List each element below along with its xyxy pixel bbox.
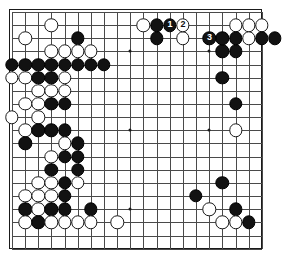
- stone-black: [268, 32, 281, 45]
- move-number-label: 2: [177, 19, 188, 30]
- move-stone-1: 1: [163, 18, 176, 31]
- star-point: [129, 50, 132, 53]
- stone-white: [5, 71, 18, 84]
- move-number-label: 1: [164, 19, 175, 30]
- stone-white: [32, 110, 45, 123]
- stone-white: [229, 124, 242, 137]
- stone-black: [45, 97, 58, 110]
- star-point: [129, 129, 132, 132]
- grid-line-horizontal: [12, 117, 262, 118]
- stone-black: [58, 189, 71, 202]
- stone-black: [45, 71, 58, 84]
- stone-white: [18, 189, 31, 202]
- stone-white: [45, 45, 58, 58]
- stone-black: [71, 150, 84, 163]
- stone-black: [229, 32, 242, 45]
- stone-black: [45, 203, 58, 216]
- stone-white: [5, 110, 18, 123]
- stone-white: [229, 18, 242, 31]
- stone-white: [18, 32, 31, 45]
- stone-white: [84, 45, 97, 58]
- stone-black: [5, 58, 18, 71]
- stone-black: [58, 203, 71, 216]
- stone-white: [45, 150, 58, 163]
- stone-white: [32, 189, 45, 202]
- stone-white: [18, 71, 31, 84]
- stone-white: [45, 84, 58, 97]
- stone-white: [32, 97, 45, 110]
- stone-black: [32, 124, 45, 137]
- stone-black: [18, 203, 31, 216]
- stone-black: [58, 97, 71, 110]
- stone-black: [18, 137, 31, 150]
- stone-black: [71, 163, 84, 176]
- stone-black: [229, 97, 242, 110]
- stone-white: [71, 216, 84, 229]
- stone-white: [18, 124, 31, 137]
- stone-black: [255, 32, 268, 45]
- stone-white: [255, 18, 268, 31]
- stone-black: [45, 124, 58, 137]
- stone-black: [229, 45, 242, 58]
- stone-black: [216, 71, 229, 84]
- stone-white: [176, 32, 189, 45]
- stone-black: [216, 32, 229, 45]
- stone-white: [71, 176, 84, 189]
- grid-line-horizontal: [12, 12, 262, 13]
- move-number-label: 3: [204, 33, 215, 44]
- star-point: [208, 50, 211, 53]
- stone-black: [32, 216, 45, 229]
- stone-black: [150, 18, 163, 31]
- go-board-diagram: 123: [0, 0, 283, 280]
- stone-white: [58, 84, 71, 97]
- star-point: [208, 129, 211, 132]
- stone-black: [84, 58, 97, 71]
- move-stone-2: 2: [176, 18, 189, 31]
- stone-white: [18, 97, 31, 110]
- stone-white: [229, 216, 242, 229]
- stone-white: [110, 216, 123, 229]
- move-stone-3: 3: [203, 32, 216, 45]
- stone-white: [45, 18, 58, 31]
- grid-line-horizontal: [12, 143, 262, 144]
- stone-white: [242, 18, 255, 31]
- stone-black: [32, 71, 45, 84]
- stone-white: [58, 45, 71, 58]
- stone-black: [45, 163, 58, 176]
- stone-white: [242, 32, 255, 45]
- stone-black: [150, 32, 163, 45]
- stone-black: [229, 203, 242, 216]
- stone-black: [45, 58, 58, 71]
- stone-black: [216, 45, 229, 58]
- stone-black: [71, 32, 84, 45]
- stone-white: [32, 203, 45, 216]
- grid-line-horizontal: [12, 236, 262, 237]
- stone-black: [71, 58, 84, 71]
- stone-black: [32, 58, 45, 71]
- stone-white: [32, 84, 45, 97]
- stone-white: [32, 176, 45, 189]
- board-frame: 123: [9, 9, 262, 249]
- stone-white: [137, 18, 150, 31]
- stone-white: [45, 176, 58, 189]
- stone-black: [18, 58, 31, 71]
- stone-white: [18, 216, 31, 229]
- stone-black: [58, 58, 71, 71]
- stone-white: [84, 216, 97, 229]
- stone-white: [45, 216, 58, 229]
- stone-black: [216, 176, 229, 189]
- grid-line-horizontal: [12, 249, 262, 250]
- stone-black: [242, 216, 255, 229]
- stone-white: [216, 216, 229, 229]
- stone-white: [58, 71, 71, 84]
- stone-black: [58, 176, 71, 189]
- stone-black: [58, 124, 71, 137]
- star-point: [129, 208, 132, 211]
- stone-white: [45, 189, 58, 202]
- grid-line-vertical: [262, 12, 263, 249]
- stone-black: [58, 150, 71, 163]
- stone-black: [84, 203, 97, 216]
- stone-white: [58, 216, 71, 229]
- stone-white: [71, 45, 84, 58]
- stone-white: [203, 203, 216, 216]
